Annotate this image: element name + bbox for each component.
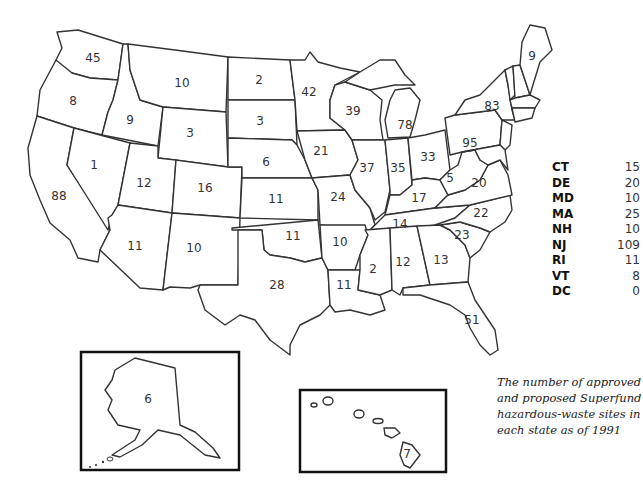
legend-row-ri: RI11 (552, 253, 643, 269)
state-ct-ri[interactable] (512, 108, 535, 122)
label-wa: 45 (85, 51, 100, 65)
label-oh: 33 (420, 150, 435, 164)
label-il: 37 (359, 161, 374, 175)
label-ut: 12 (136, 176, 151, 190)
label-ky: 17 (411, 191, 426, 205)
label-ms: 2 (369, 262, 377, 276)
label-wv: 5 (446, 171, 454, 185)
label-ne: 6 (262, 155, 270, 169)
label-fl: 51 (464, 313, 479, 327)
label-nm: 10 (186, 241, 201, 255)
label-nv: 1 (90, 158, 98, 172)
label-in: 35 (390, 161, 405, 175)
label-sc: 23 (454, 228, 469, 242)
label-or: 8 (69, 94, 77, 108)
label-nc: 22 (473, 206, 488, 220)
label-mt: 10 (174, 76, 189, 90)
label-mi: 78 (397, 118, 412, 132)
label-ar: 10 (332, 235, 347, 249)
legend-row-ct: CT15 (552, 160, 643, 176)
hawaii-inset-frame (300, 390, 446, 472)
label-wi: 39 (345, 104, 360, 118)
label-ks: 11 (268, 192, 283, 206)
label-mo: 24 (330, 190, 345, 204)
label-id: 9 (126, 113, 134, 127)
legend-row-vt: VT8 (552, 269, 643, 285)
label-hi: 7 (403, 447, 411, 461)
legend-row-nh: NH10 (552, 222, 643, 238)
legend-row-ma: MA25 (552, 207, 643, 223)
label-ny: 83 (484, 99, 499, 113)
legend-row-dc: DC0 (552, 284, 643, 300)
label-va: 20 (471, 176, 486, 190)
state-fl[interactable] (403, 282, 498, 355)
map-caption: The number of approved and proposed Supe… (497, 374, 643, 438)
label-ak: 6 (144, 392, 152, 406)
label-az: 11 (127, 239, 142, 253)
label-me: 9 (528, 49, 536, 63)
label-ga: 13 (433, 253, 448, 267)
label-wy: 3 (186, 126, 194, 140)
label-ok: 11 (285, 229, 300, 243)
small-states-table: CT15 DE20 MD10 MA25 NH10 NJ109 RI11 VT8 … (552, 160, 643, 300)
legend-row-nj: NJ109 (552, 238, 643, 254)
legend-row-md: MD10 (552, 191, 643, 207)
label-tn: 14 (392, 217, 407, 231)
label-la: 11 (336, 278, 351, 292)
label-tx: 28 (269, 278, 284, 292)
state-nj[interactable] (500, 120, 512, 150)
label-al: 12 (395, 255, 410, 269)
label-pa: 95 (462, 136, 477, 150)
label-mn: 42 (301, 85, 316, 99)
label-nd: 2 (255, 73, 263, 87)
label-sd: 3 (256, 114, 264, 128)
label-ia: 21 (313, 144, 328, 158)
label-co: 16 (197, 181, 212, 195)
legend-row-de: DE20 (552, 176, 643, 192)
label-ca: 88 (51, 189, 66, 203)
